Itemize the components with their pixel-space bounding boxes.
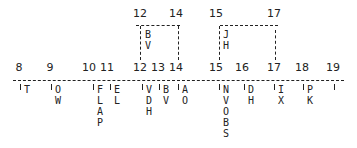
- axis-tick-mark: [274, 84, 275, 90]
- axis-tick-mark: [303, 84, 304, 90]
- interval-left-edge: [140, 26, 141, 60]
- axis-tick-label: 8: [16, 62, 23, 74]
- tick-label-stack: DH: [247, 84, 255, 106]
- axis-tick-mark: [110, 84, 111, 90]
- interval-left-edge: [219, 26, 220, 60]
- tick-label-stack: FLAP: [96, 84, 104, 128]
- axis-tick-mark: [93, 84, 94, 90]
- axis-tick-mark: [178, 84, 179, 90]
- interval-bar: [136, 25, 180, 26]
- axis-tick-mark: [334, 84, 335, 90]
- axis-tick-label: 13: [151, 62, 165, 74]
- axis-tick-label: 9: [47, 62, 54, 74]
- interval-start-label: 15: [209, 8, 223, 20]
- interval-letter: V: [144, 40, 152, 51]
- tick-label-stack: VDH: [145, 84, 153, 117]
- interval-right-edge: [275, 30, 276, 60]
- interval-letter: J: [222, 29, 230, 40]
- axis-tick-label: 18: [295, 62, 309, 74]
- axis-tick-label: 17: [267, 62, 281, 74]
- axis-tick-mark: [159, 84, 160, 90]
- axis-tick-label: 10: [82, 62, 96, 74]
- interval-letter: B: [144, 29, 152, 40]
- axis-tick-label: 11: [100, 62, 114, 74]
- tick-label-stack: IX: [277, 84, 285, 106]
- axis-tick-label: 14: [169, 62, 183, 74]
- axis-line: [13, 80, 344, 81]
- axis-tick-mark: [244, 84, 245, 90]
- tick-label-stack: AO: [181, 84, 189, 106]
- tick-label-stack: NVOBS: [222, 84, 230, 139]
- axis-tick-label: 16: [235, 62, 249, 74]
- interval-right-edge: [178, 26, 179, 60]
- interval-end-label: 14: [169, 8, 183, 20]
- interval-start-label: 12: [133, 8, 147, 20]
- axis-tick-mark: [219, 84, 220, 90]
- axis-tick-label: 12: [133, 62, 147, 74]
- axis-tick-mark: [142, 84, 143, 90]
- axis-tick-label: 15: [209, 62, 223, 74]
- tick-label-stack: EL: [113, 84, 121, 106]
- tick-label-stack: PK: [306, 84, 314, 106]
- tick-label-stack: OW: [54, 84, 62, 106]
- interval-end-label: 17: [267, 8, 281, 20]
- axis-tick-mark: [20, 84, 21, 90]
- axis-tick-mark: [51, 84, 52, 90]
- tick-label-stack: T: [23, 84, 31, 95]
- interval-letter: H: [222, 40, 230, 51]
- tick-label-stack: BV: [162, 84, 170, 106]
- axis-tick-label: 19: [326, 62, 340, 74]
- interval-bar: [220, 25, 278, 26]
